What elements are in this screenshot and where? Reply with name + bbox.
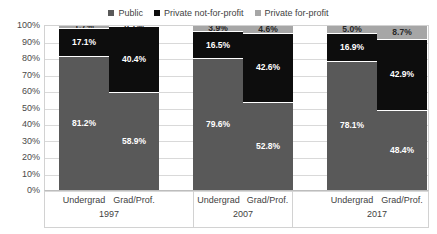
bar-columns: 1.7%17.1%81.2%0.7%40.4%58.9%3.9%16.5%79.…: [45, 26, 428, 190]
category-label: Undergrad: [59, 195, 109, 205]
stacked-bar[interactable]: 4.6%42.6%52.8%: [243, 26, 293, 190]
bar-segment-value-label: 58.9%: [122, 137, 146, 146]
bar-segment-value-label: 81.2%: [72, 119, 96, 128]
category-label: Undergrad: [327, 195, 377, 205]
bar-segment-value-label: 40.4%: [122, 55, 146, 64]
bar-group: 3.9%16.5%79.6%4.6%42.6%52.8%: [193, 26, 293, 190]
bar-segment-value-label: 79.6%: [206, 120, 230, 129]
y-axis-tick-label: 80%: [0, 54, 40, 63]
legend-item[interactable]: Private for-profit: [255, 8, 329, 18]
category-axis: UndergradGrad/Prof.1997UndergradGrad/Pro…: [44, 190, 429, 228]
legend-label: Private not-for-profit: [164, 8, 244, 18]
bar-segment[interactable]: 16.5%: [193, 32, 243, 59]
plot-area: 1.7%17.1%81.2%0.7%40.4%58.9%3.9%16.5%79.…: [44, 25, 429, 190]
bar-segment[interactable]: 42.9%: [377, 40, 427, 110]
bar-segment[interactable]: 79.6%: [193, 59, 243, 190]
square-marker-icon: [255, 10, 261, 16]
legend-item[interactable]: Private not-for-profit: [154, 8, 244, 18]
stacked-bar[interactable]: 8.7%42.9%48.4%: [377, 26, 427, 190]
bar-segment[interactable]: 78.1%: [327, 62, 377, 190]
bar-segment-value-label: 78.1%: [340, 121, 364, 130]
legend-label: Private for-profit: [265, 8, 329, 18]
bar-group: 1.7%17.1%81.2%0.7%40.4%58.9%: [59, 26, 159, 190]
bar-segment-value-label: 16.9%: [340, 43, 364, 52]
category-group: UndergradGrad/Prof.2007: [193, 191, 293, 227]
stacked-bar[interactable]: 0.7%40.4%58.9%: [109, 26, 159, 190]
bar-segment[interactable]: 58.9%: [109, 93, 159, 190]
bar-segment[interactable]: 40.4%: [109, 27, 159, 93]
category-group: UndergradGrad/Prof.2017: [327, 191, 427, 227]
year-label: 1997: [59, 208, 159, 219]
category-label: Grad/Prof.: [243, 195, 292, 205]
y-axis-tick-label: 0%: [0, 186, 40, 195]
bar-segment[interactable]: 52.8%: [243, 103, 293, 190]
bar-segment-value-label: 42.6%: [256, 63, 280, 72]
category-label: Undergrad: [194, 195, 243, 205]
bar-segment-value-label: 16.5%: [206, 41, 230, 50]
stacked-bar[interactable]: 3.9%16.5%79.6%: [193, 26, 243, 190]
y-axis-tick-label: 10%: [0, 170, 40, 179]
year-label: 2017: [327, 208, 427, 219]
chart-legend: PublicPrivate not-for-profitPrivate for-…: [0, 6, 437, 20]
bar-segment[interactable]: 8.7%: [377, 26, 427, 40]
bar-segment-value-label: 52.8%: [256, 142, 280, 151]
bar-segment[interactable]: 5.0%: [327, 26, 377, 34]
bar-segment[interactable]: 81.2%: [59, 57, 109, 190]
y-axis-tick-label: 20%: [0, 153, 40, 162]
stacked-bar[interactable]: 5.0%16.9%78.1%: [327, 26, 377, 190]
y-axis-tick-label: 100%: [0, 21, 40, 30]
bar-segment[interactable]: 42.6%: [243, 34, 293, 104]
bar-segment[interactable]: 17.1%: [59, 29, 109, 57]
y-axis-tick-label: 70%: [0, 71, 40, 80]
stacked-bar-chart: PublicPrivate not-for-profitPrivate for-…: [0, 0, 437, 234]
bar-group: 5.0%16.9%78.1%8.7%42.9%48.4%: [327, 26, 427, 190]
y-axis-tick-label: 50%: [0, 104, 40, 113]
bar-segment-value-label: 42.9%: [390, 70, 414, 79]
category-label: Grad/Prof.: [109, 195, 159, 205]
stacked-bar[interactable]: 1.7%17.1%81.2%: [59, 26, 109, 190]
square-marker-icon: [108, 10, 114, 16]
category-label: Grad/Prof.: [377, 195, 427, 205]
y-axis-tick-label: 40%: [0, 120, 40, 129]
y-axis: 100%90%80%70%60%50%40%30%20%10%0%: [0, 25, 40, 190]
bar-segment-value-label: 48.4%: [390, 146, 414, 155]
bar-segment[interactable]: 16.9%: [327, 34, 377, 62]
legend-label: Public: [118, 8, 143, 18]
y-axis-tick-label: 90%: [0, 38, 40, 47]
category-group: UndergradGrad/Prof.1997: [59, 191, 159, 227]
square-marker-icon: [154, 10, 160, 16]
y-axis-tick-label: 30%: [0, 137, 40, 146]
bar-segment[interactable]: 4.6%: [243, 26, 293, 34]
bar-segment-value-label: 17.1%: [72, 38, 96, 47]
bar-segment-value-label: 5.0%: [342, 26, 361, 34]
bar-segment-value-label: 4.6%: [258, 26, 277, 34]
bar-segment-value-label: 8.7%: [392, 28, 411, 37]
year-label: 2007: [194, 208, 292, 219]
y-axis-tick-label: 60%: [0, 87, 40, 96]
bar-segment[interactable]: 48.4%: [377, 111, 427, 190]
legend-item[interactable]: Public: [108, 8, 143, 18]
